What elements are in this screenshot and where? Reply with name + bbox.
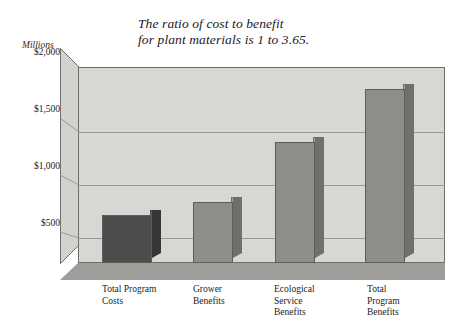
plot-left-wall-edge bbox=[60, 48, 79, 264]
cost-benefit-bar-chart: The ratio of cost to benefit for plant m… bbox=[0, 0, 449, 332]
bar-total-program-benefits bbox=[365, 89, 405, 263]
bar-side-face-1 bbox=[152, 210, 161, 258]
y-tick-label-1000: $1,000 bbox=[14, 161, 60, 171]
x-label-ecological-service-benefits: Ecological Service Benefits bbox=[274, 284, 315, 319]
chart-title-line-2: for plant materials is 1 to 3.65. bbox=[138, 32, 398, 48]
bar-side-face-3 bbox=[315, 137, 324, 258]
x-label-total-program-costs: Total Program Costs bbox=[102, 284, 156, 307]
x-label-grower-benefits: Grower Benefits bbox=[193, 284, 225, 307]
chart-title: The ratio of cost to benefit for plant m… bbox=[138, 16, 398, 48]
x-axis-labels: Total Program Costs Grower Benefits Ecol… bbox=[60, 284, 449, 332]
y-axis-ticks: $2,000 $1,500 $1,000 $500 bbox=[14, 0, 60, 332]
bar-front-face-3 bbox=[275, 142, 315, 263]
bar-total-program-costs bbox=[102, 215, 152, 263]
bar-side-face-4 bbox=[405, 84, 414, 258]
chart-title-line-1: The ratio of cost to benefit bbox=[138, 16, 398, 32]
y-tick-label-2000: $2,000 bbox=[14, 47, 60, 57]
bar-front-face-4 bbox=[365, 89, 405, 263]
bar-front-face-2 bbox=[193, 202, 233, 263]
y-tick-label-500: $500 bbox=[14, 218, 60, 228]
bar-side-face-2 bbox=[233, 197, 242, 258]
y-tick-label-1500: $1,500 bbox=[14, 104, 60, 114]
bar-grower-benefits bbox=[193, 202, 233, 263]
bar-front-face-1 bbox=[102, 215, 152, 263]
bar-ecological-service-benefits bbox=[275, 142, 315, 263]
x-label-total-program-benefits: Total Program Benefits bbox=[367, 284, 400, 319]
plot-area bbox=[60, 48, 445, 280]
